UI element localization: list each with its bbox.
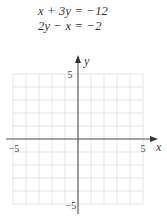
coordinate-grid: y x 5 −5 −5 5: [0, 0, 167, 220]
y-axis-label: y: [83, 54, 90, 68]
x-axis-label: x: [155, 140, 162, 154]
x-max-tick-label: 5: [141, 143, 146, 154]
y-max-tick-label: 5: [68, 69, 73, 80]
y-min-tick-label: −5: [66, 200, 77, 211]
x-min-tick-label: −5: [9, 143, 20, 154]
y-axis-arrow-icon: [75, 55, 81, 63]
